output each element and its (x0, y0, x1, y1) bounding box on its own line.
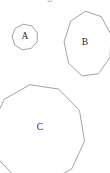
polygon-figure: g A B C (0, 0, 110, 173)
polygon-b-label: B (82, 37, 88, 47)
shape-group-b[interactable]: B (64, 11, 110, 76)
polygon-c-label: C (37, 122, 43, 132)
shape-group-c[interactable]: C (0, 85, 85, 173)
polygon-a-label: A (22, 31, 29, 41)
shape-group-a[interactable]: A (12, 24, 37, 50)
figure-canvas: A B C (0, 0, 110, 173)
